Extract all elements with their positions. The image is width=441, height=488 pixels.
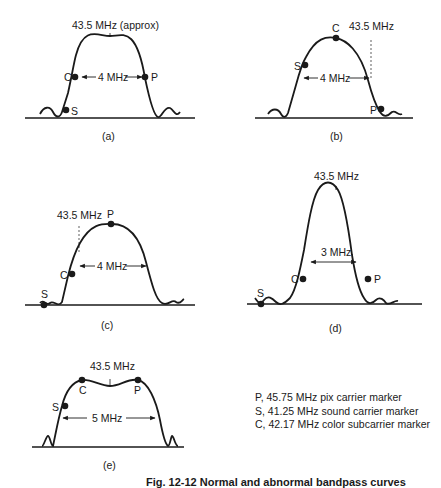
marker-c-dot	[300, 276, 307, 283]
marker-p-dot	[378, 106, 385, 113]
marker-p-dot	[108, 221, 115, 228]
legend-item-s: S, 41.25 MHz sound carrier marker	[255, 405, 430, 419]
bandwidth-label: 4 MHz	[320, 72, 350, 84]
marker-c-label: C	[60, 269, 68, 281]
marker-p-label: P	[374, 273, 381, 285]
panel-b: 43.5 MHz 4 MHz C S P (b)	[255, 20, 413, 142]
panel-e: 43.5 MHz 5 MHz C P S (e)	[32, 360, 184, 471]
panel-label: (a)	[102, 130, 115, 142]
bandwidth-label: 4 MHz	[98, 71, 128, 83]
marker-s-dot	[302, 62, 309, 69]
marker-legend: P, 45.75 MHz pix carrier marker S, 41.25…	[255, 391, 430, 432]
panel-d: 43.5 MHz 3 MHz C P S (d)	[247, 170, 422, 334]
marker-p-dot	[365, 276, 372, 283]
marker-p-label: P	[134, 384, 141, 396]
marker-c-label: C	[64, 71, 72, 83]
panel-label: (b)	[330, 130, 343, 142]
marker-p-dot	[142, 74, 149, 81]
panel-a: 43.5 MHz (approx) 4 MHz C P S (a)	[25, 19, 195, 142]
marker-c-dot	[79, 377, 86, 384]
marker-c-label: C	[291, 273, 299, 285]
marker-p-label: P	[370, 104, 377, 116]
bandwidth-label: 3 MHz	[321, 246, 351, 258]
panel-label: (c)	[101, 319, 113, 331]
marker-s-label: S	[257, 287, 264, 299]
marker-s-dot	[41, 302, 48, 309]
center-frequency-label: 43.5 MHz	[57, 209, 102, 221]
marker-p-label: P	[107, 208, 114, 220]
marker-p-label: P	[151, 71, 158, 83]
panel-label: (d)	[329, 322, 342, 334]
panel-label: (e)	[103, 459, 116, 471]
center-frequency-label: 43.5 MHz	[349, 20, 394, 32]
marker-s-dot	[63, 107, 70, 114]
marker-c-dot	[69, 271, 76, 278]
marker-c-label: C	[332, 22, 340, 34]
bandwidth-label: 5 MHz	[92, 412, 122, 424]
marker-c-label: C	[79, 384, 87, 396]
center-frequency-label: 43.5 MHz (approx)	[72, 19, 159, 31]
panel-c: 43.5 MHz 4 MHz P C S (c)	[25, 208, 195, 331]
legend-item-p: P, 45.75 MHz pix carrier marker	[255, 391, 430, 405]
marker-c-dot	[333, 35, 340, 42]
center-frequency-label: 43.5 MHz	[90, 360, 135, 372]
bandwidth-label: 4 MHz	[97, 260, 127, 272]
marker-s-dot	[258, 301, 265, 308]
response-curve	[255, 183, 398, 305]
marker-c-dot	[72, 74, 79, 81]
figure-caption: Fig. 12-12 Normal and abnormal bandpass …	[146, 476, 406, 488]
marker-p-dot	[135, 377, 142, 384]
marker-s-label: S	[41, 288, 48, 300]
center-frequency-label: 43.5 MHz	[314, 170, 359, 182]
marker-s-dot	[62, 403, 69, 410]
legend-item-c: C, 42.17 MHz color subcarrier marker	[255, 418, 430, 432]
marker-s-label: S	[294, 60, 301, 72]
marker-s-label: S	[71, 105, 78, 117]
marker-s-label: S	[52, 401, 59, 413]
